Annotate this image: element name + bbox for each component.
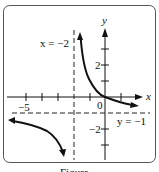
x-axis-label: x xyxy=(145,90,151,102)
horizontal-asymptote-label: y = −1 xyxy=(117,115,146,127)
graph-figure: x = −2 y = −1 x y −5 0 2 −2 Figure xyxy=(0,0,159,172)
figure-caption: Figure xyxy=(60,166,89,172)
curve-left-branch xyxy=(8,117,66,157)
vertical-asymptote-label: x = −2 xyxy=(40,37,69,49)
origin-label: 0 xyxy=(97,99,103,111)
y-axis xyxy=(101,28,109,160)
figure-frame xyxy=(4,6,156,163)
tick-label-yneg2: −2 xyxy=(89,123,101,135)
x-axis xyxy=(7,93,143,101)
y-axis-label: y xyxy=(101,14,107,26)
tick-label-y2: 2 xyxy=(95,59,101,71)
tick-label-neg5: −5 xyxy=(18,101,30,113)
